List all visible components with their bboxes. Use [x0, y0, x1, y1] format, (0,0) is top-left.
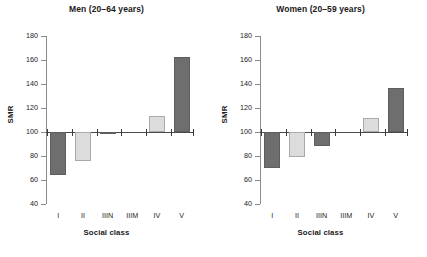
y-tick-80 [255, 156, 260, 157]
y-tick-label-wrap: 140 [12, 80, 38, 88]
y-tick-label-80: 80 [14, 152, 38, 159]
bar-men-IIIN [100, 132, 116, 134]
y-tick-180 [255, 36, 260, 37]
bar-women-V [388, 88, 404, 132]
figure-smr-by-social-class: Men (20–64 years) SMR 406080100120140160… [0, 0, 427, 257]
bar-men-IV [149, 116, 165, 132]
y-tick-label-180: 180 [228, 32, 252, 39]
y-tick-label-180: 180 [14, 32, 38, 39]
bar-men-V [174, 57, 190, 132]
y-axis-line-men [46, 36, 47, 204]
x-tick-label-II: II [71, 212, 96, 219]
bar-women-IV [363, 118, 379, 132]
x-tick-V [385, 129, 386, 136]
y-tick-label-wrap: 100 [12, 128, 38, 136]
x-tick-IIIM [121, 129, 122, 136]
y-tick-label-100: 100 [228, 128, 252, 135]
y-tick-label-160: 160 [228, 56, 252, 63]
y-tick-160 [41, 60, 46, 61]
x-tick-label-IIIM: IIIM [120, 212, 145, 219]
y-tick-label-wrap: 180 [226, 32, 252, 40]
y-tick-80 [41, 156, 46, 157]
y-tick-label-60: 60 [228, 176, 252, 183]
x-tick-end [193, 129, 194, 136]
x-tick-IV [360, 129, 361, 136]
y-tick-label-40: 40 [14, 200, 38, 207]
x-axis-label-men: Social class [0, 228, 213, 237]
x-tick-II [286, 129, 287, 136]
x-tick-IIIN [311, 129, 312, 136]
y-tick-140 [41, 84, 46, 85]
x-tick-label-II: II [285, 212, 310, 219]
y-tick-label-120: 120 [14, 104, 38, 111]
x-tick-IIIN [97, 129, 98, 136]
x-tick-label-V: V [383, 212, 408, 219]
panel-title-men: Men (20–64 years) [0, 4, 213, 14]
y-axis-line-women [260, 36, 261, 204]
bar-women-I [264, 132, 280, 168]
y-tick-label-wrap: 160 [12, 56, 38, 64]
bar-men-I [50, 132, 66, 175]
y-tick-label-wrap: 180 [12, 32, 38, 40]
y-tick-label-wrap: 60 [12, 176, 38, 184]
x-tick-end [407, 129, 408, 136]
bar-women-II [289, 132, 305, 157]
y-tick-label-wrap: 40 [12, 200, 38, 208]
x-tick-IV [146, 129, 147, 136]
y-tick-140 [255, 84, 260, 85]
x-tick-I [47, 129, 48, 136]
y-tick-40 [41, 204, 46, 205]
y-tick-label-100: 100 [14, 128, 38, 135]
x-tick-II [72, 129, 73, 136]
y-tick-label-wrap: 100 [226, 128, 252, 136]
x-tick-label-I: I [46, 212, 71, 219]
x-tick-label-IV: IV [145, 212, 170, 219]
y-tick-label-wrap: 40 [226, 200, 252, 208]
y-tick-label-wrap: 80 [226, 152, 252, 160]
x-tick-label-IV: IV [359, 212, 384, 219]
y-tick-120 [255, 108, 260, 109]
y-tick-label-140: 140 [14, 80, 38, 87]
panel-title-women: Women (20–59 years) [214, 4, 427, 14]
x-tick-label-IIIM: IIIM [334, 212, 359, 219]
y-tick-label-120: 120 [228, 104, 252, 111]
x-tick-IIIM [335, 129, 336, 136]
panel-men: Men (20–64 years) SMR 406080100120140160… [0, 0, 213, 257]
y-tick-label-60: 60 [14, 176, 38, 183]
x-tick-label-V: V [169, 212, 194, 219]
x-axis-label-women: Social class [214, 228, 427, 237]
y-tick-label-wrap: 120 [12, 104, 38, 112]
y-tick-label-40: 40 [228, 200, 252, 207]
x-tick-V [171, 129, 172, 136]
y-tick-label-160: 160 [14, 56, 38, 63]
y-tick-40 [255, 204, 260, 205]
y-tick-120 [41, 108, 46, 109]
y-tick-60 [255, 180, 260, 181]
x-tick-I [261, 129, 262, 136]
panel-women: Women (20–59 years) SMR 4060801001201401… [214, 0, 427, 257]
y-tick-label-wrap: 140 [226, 80, 252, 88]
y-tick-label-wrap: 160 [226, 56, 252, 64]
x-tick-label-IIIN: IIIN [309, 212, 334, 219]
x-tick-label-I: I [260, 212, 285, 219]
y-tick-label-wrap: 80 [12, 152, 38, 160]
y-tick-label-140: 140 [228, 80, 252, 87]
bar-women-IIIN [314, 132, 330, 146]
y-tick-label-wrap: 120 [226, 104, 252, 112]
x-tick-label-IIIN: IIIN [95, 212, 120, 219]
y-tick-160 [255, 60, 260, 61]
bar-men-II [75, 132, 91, 161]
y-tick-label-80: 80 [228, 152, 252, 159]
y-tick-180 [41, 36, 46, 37]
y-tick-60 [41, 180, 46, 181]
y-tick-label-wrap: 60 [226, 176, 252, 184]
